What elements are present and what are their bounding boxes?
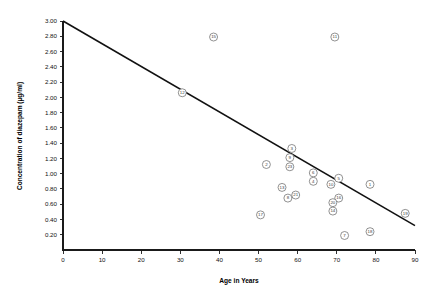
data-point[interactable]: 14	[329, 207, 337, 215]
data-point-label: 20	[330, 200, 335, 205]
x-tick-label: 20	[138, 256, 145, 263]
data-point-label: 13	[280, 185, 285, 190]
data-point[interactable]: 20	[329, 199, 337, 207]
x-tick-label: 50	[255, 256, 262, 263]
data-point[interactable]: 11	[331, 33, 339, 41]
data-point[interactable]: 4	[309, 177, 317, 185]
x-tick-label: 80	[372, 256, 379, 263]
data-point[interactable]: 6	[309, 169, 317, 177]
data-point[interactable]: 10	[327, 180, 335, 188]
data-point[interactable]: 17	[257, 211, 265, 219]
data-point[interactable]: 18	[366, 228, 374, 236]
y-tick-label: 2.80	[45, 32, 58, 39]
y-tick-label: 0.60	[45, 200, 58, 207]
data-point[interactable]: 21	[292, 191, 300, 199]
data-point-label: 12	[180, 90, 185, 95]
y-axis-tick-labels: 0.200.400.600.801.001.201.401.601.802.00…	[45, 17, 58, 238]
data-points: 15111239223654101132181620141917187	[178, 33, 409, 239]
y-tick-label: 2.00	[45, 94, 58, 101]
data-point[interactable]: 9	[286, 154, 294, 162]
y-tick-label: 0.20	[45, 231, 58, 238]
axis-spines	[63, 21, 415, 250]
data-point-label: 23	[287, 164, 292, 169]
y-tick-label: 0.40	[45, 216, 58, 223]
y-tick-label: 0.80	[45, 185, 58, 192]
scatter-plot: 0.200.400.600.801.001.201.401.601.802.00…	[0, 0, 431, 291]
y-tick-label: 1.20	[45, 155, 58, 162]
y-tick-label: 2.20	[45, 78, 58, 85]
data-point[interactable]: 15	[210, 33, 218, 41]
data-point[interactable]: 5	[335, 174, 343, 182]
data-point-label: 16	[336, 195, 341, 200]
y-tick-label: 1.40	[45, 139, 58, 146]
x-tick-label: 60	[294, 256, 301, 263]
x-tick-label: 0	[61, 256, 65, 263]
data-point[interactable]: 3	[288, 144, 296, 152]
data-point-label: 14	[330, 208, 335, 213]
x-tick-label: 70	[333, 256, 340, 263]
data-point-label: 19	[403, 211, 408, 216]
data-point-label: 18	[368, 229, 373, 234]
data-point-label: 11	[333, 34, 338, 39]
data-point[interactable]: 19	[401, 209, 409, 217]
chart-figure: 0.200.400.600.801.001.201.401.601.802.00…	[0, 0, 431, 291]
x-tick-label: 30	[177, 256, 184, 263]
tick-marks	[60, 21, 416, 254]
x-tick-label: 90	[412, 256, 419, 263]
data-point[interactable]: 8	[284, 194, 292, 202]
y-axis-title: Concentration of diazepam (µg/ml)	[16, 82, 24, 190]
data-point-label: 15	[211, 34, 216, 39]
y-tick-label: 3.00	[45, 17, 58, 24]
y-tick-label: 1.60	[45, 124, 58, 131]
y-tick-label: 1.00	[45, 170, 58, 177]
data-point[interactable]: 1	[366, 180, 374, 188]
data-point-label: 17	[258, 212, 263, 217]
axes	[63, 21, 415, 250]
x-tick-label: 40	[216, 256, 223, 263]
x-axis-title: Age in Years	[219, 277, 259, 285]
y-tick-label: 2.60	[45, 48, 58, 55]
data-point[interactable]: 13	[278, 183, 286, 191]
data-point[interactable]: 2	[262, 161, 270, 169]
x-tick-label: 10	[99, 256, 106, 263]
data-point-label: 21	[293, 192, 298, 197]
data-point-label: 10	[328, 182, 333, 187]
data-point[interactable]: 7	[341, 231, 349, 239]
data-point[interactable]: 23	[286, 163, 294, 171]
x-axis-tick-labels: 0102030405060708090	[61, 256, 419, 263]
regression-line	[63, 21, 415, 226]
data-point[interactable]: 12	[178, 89, 186, 97]
trend-line	[63, 21, 415, 226]
y-tick-label: 2.40	[45, 63, 58, 70]
y-tick-label: 1.80	[45, 109, 58, 116]
